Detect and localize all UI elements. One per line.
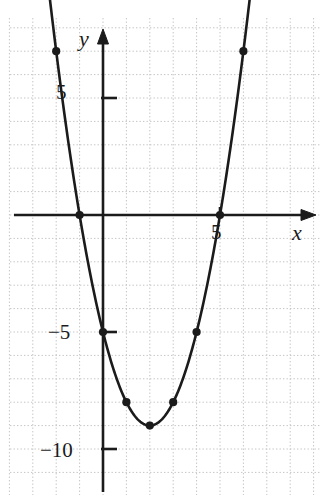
y-tick-label-5: 5: [56, 82, 67, 103]
y-axis-arrowhead: [98, 29, 109, 44]
parabola-plot: [0, 0, 327, 503]
x-tick-label-5: 5: [211, 222, 222, 243]
y-tick-label-minus10: −10: [40, 440, 73, 461]
data-point: [193, 328, 201, 336]
y-axis-label: y: [79, 28, 89, 50]
data-point: [76, 211, 84, 219]
y-tick-label-minus5: −5: [48, 322, 70, 343]
graph-figure: 5 −5 −10 5 x y: [0, 0, 327, 503]
data-point: [216, 211, 224, 219]
data-point: [169, 398, 177, 406]
x-axis-label: x: [292, 222, 302, 244]
data-point: [239, 47, 247, 55]
data-point: [52, 47, 60, 55]
data-point: [99, 328, 107, 336]
tick-marks: [101, 98, 220, 449]
data-point: [146, 422, 154, 430]
data-point: [122, 398, 130, 406]
